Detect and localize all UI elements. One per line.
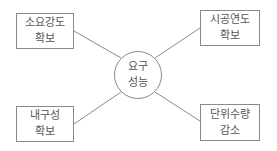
node-durability: 내구성 확보 [16, 106, 74, 142]
node-label-line1: 내구성 [30, 108, 60, 124]
connector-bottom-left [74, 92, 121, 124]
connector-top-right [155, 28, 200, 58]
connector-top-left [74, 31, 121, 58]
node-unit-water-reduction: 단위수량 감소 [200, 104, 260, 141]
connector-bottom-right [155, 92, 200, 121]
node-label-line1: 시공연도 [210, 12, 250, 28]
node-label-line1: 단위수량 [210, 107, 250, 123]
node-workability: 시공연도 확보 [200, 10, 260, 46]
center-required-performance: 요구 성능 [114, 51, 162, 99]
center-label-line2: 성능 [128, 75, 148, 91]
node-label-line1: 소요강도 [25, 15, 65, 31]
node-label-line2: 확보 [35, 31, 55, 47]
node-label-line2: 감소 [220, 123, 240, 139]
node-required-strength: 소요강도 확보 [16, 13, 74, 49]
node-label-line2: 확보 [220, 28, 240, 44]
node-label-line2: 확보 [35, 124, 55, 140]
center-label-line1: 요구 [128, 59, 148, 75]
